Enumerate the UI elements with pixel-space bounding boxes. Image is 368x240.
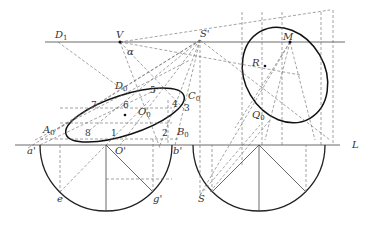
- label-R: R: [252, 58, 260, 68]
- label-L: L: [352, 140, 359, 150]
- label-O0: O0: [138, 107, 151, 120]
- label-D1: D1: [55, 30, 68, 43]
- label-Q0: Q0: [252, 110, 265, 123]
- label-3: 3: [184, 103, 190, 113]
- label-g-prime: g': [153, 194, 162, 204]
- label-8: 8: [85, 128, 91, 138]
- label-S-prime: S': [200, 29, 210, 39]
- label-2: 2: [162, 128, 168, 138]
- label-M: M: [283, 32, 293, 42]
- label-e: e: [57, 194, 63, 204]
- label-1: 1: [111, 128, 117, 138]
- label-5: 5: [150, 85, 156, 95]
- label-D0: D0: [115, 81, 128, 94]
- label-b-prime: b': [173, 146, 182, 156]
- label-V: V: [116, 30, 123, 40]
- label-O-prime: O': [115, 146, 126, 156]
- label-S: S: [198, 194, 205, 204]
- label-B0: B0: [177, 127, 189, 140]
- label-A0: A0: [43, 125, 55, 138]
- label-6: 6: [123, 100, 129, 110]
- label-a-prime: a': [27, 146, 36, 156]
- label-7: 7: [91, 100, 97, 110]
- label-4: 4: [172, 99, 178, 109]
- label-alpha: α: [127, 47, 134, 57]
